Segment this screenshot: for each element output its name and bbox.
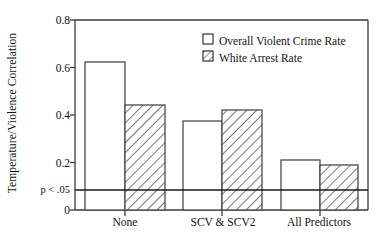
legend-box xyxy=(203,34,213,61)
legend-swatch-hatched-square xyxy=(203,51,213,61)
bar-group-all-predictors xyxy=(281,160,358,210)
bar-group-none xyxy=(85,62,165,210)
y-axis-ticks xyxy=(70,20,75,210)
bar-overall-violent-crime-rate-all xyxy=(281,160,320,210)
bar-overall-violent-crime-rate-none xyxy=(85,62,125,210)
bar-white-arrest-rate-all xyxy=(320,165,358,210)
bar-overall-violent-crime-rate-scv xyxy=(183,121,222,210)
x-axis-group-separators xyxy=(125,210,320,216)
bar-group-scv-scv2 xyxy=(183,110,262,210)
bar-white-arrest-rate-none xyxy=(125,105,165,210)
legend-swatch-open-square xyxy=(203,34,213,44)
bar-white-arrest-rate-scv xyxy=(222,110,262,210)
chart-canvas xyxy=(0,0,384,249)
bar-chart-figure: Temperature/Violence Correlation 0.8 0.6… xyxy=(0,0,384,249)
